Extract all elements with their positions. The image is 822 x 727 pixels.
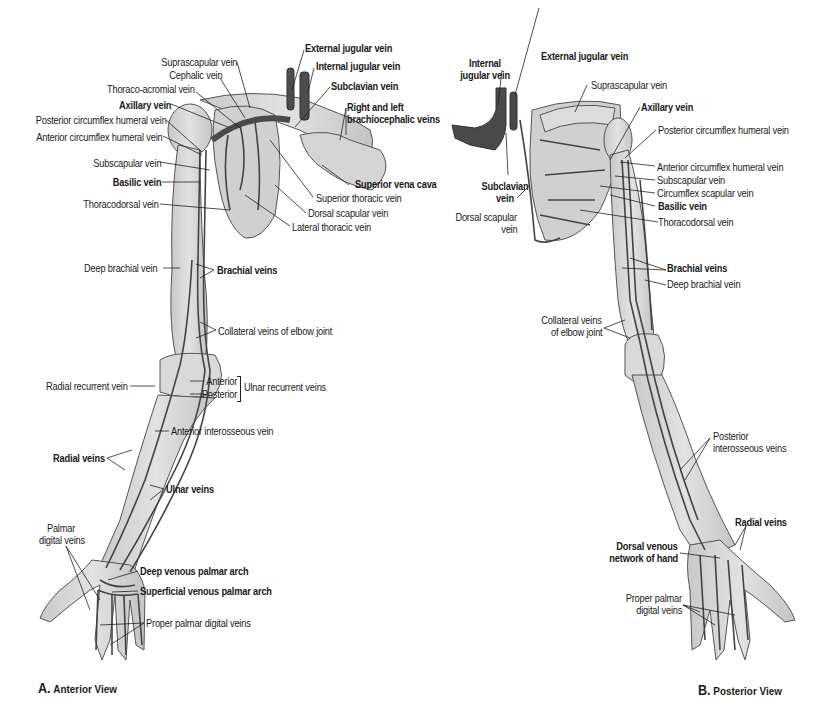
label-palmar-digital-veins-line1: Palmar: [39, 522, 83, 534]
ulnar-recurrent-bracket: [237, 376, 241, 402]
label-posterior-interosseous-veins-line2: interosseous veins: [713, 442, 786, 454]
label-basilic-vein: Basilic vein: [658, 200, 707, 212]
label-ulnar-veins: Ulnar veins: [166, 483, 214, 495]
caption-text-b: Posterior View: [713, 685, 782, 697]
label-proper-palmar-digital-veins-line2: digital veins: [636, 604, 682, 616]
label-superior-vena-cava: Superior vena cava: [355, 178, 437, 190]
label-deep-brachial-vein: Deep brachial vein: [84, 262, 157, 274]
caption-letter-a: A.: [38, 680, 51, 696]
label-posterior-circumflex-humeral-vein: Posterior circumflex humeral vein: [658, 124, 789, 136]
label-anterior-circumflex-humeral-vein: Anterior circumflex humeral vein: [37, 131, 163, 143]
label-thoracodorsal-vein: Thoracodorsal vein: [84, 198, 159, 210]
label-anterior-interosseous-vein: Anterior interosseous vein: [171, 425, 273, 437]
caption-letter-b: B.: [698, 682, 711, 698]
label-ulnar-recurrent-veins: Ulnar recurrent veins: [244, 381, 326, 393]
label-deep-venous-palmar-arch: Deep venous palmar arch: [140, 565, 248, 577]
label-collateral-veins-line2: of elbow joint: [551, 326, 602, 338]
label-deep-brachial-vein: Deep brachial vein: [667, 278, 740, 290]
label-collateral-veins-of-elbow-joint: Collateral veins of elbow joint: [218, 325, 332, 337]
label-brachiocephalic-veins-line2: brachiocephalic veins: [347, 113, 440, 125]
label-external-jugular-vein: External jugular vein: [541, 50, 628, 62]
label-internal-jugular-vein-line2: jugular vein: [459, 69, 512, 81]
label-posterior-interosseous-veins-line1: Posterior: [713, 430, 748, 442]
label-radial-recurrent-vein: Radial recurrent vein: [46, 380, 128, 392]
label-subscapular-vein: Subscapular vein: [657, 174, 725, 186]
label-palmar-digital-veins-line2: digital veins: [39, 534, 83, 546]
label-internal-jugular-vein-line1: Internal: [459, 57, 512, 69]
label-collateral-veins-line1: Collateral veins: [542, 314, 602, 326]
label-suprascapular-vein: Suprascapular vein: [591, 79, 667, 91]
label-proper-palmar-digital-veins-line1: Proper palmar: [626, 592, 682, 604]
label-ulnar-recurrent-anterior: Anterior: [206, 375, 237, 387]
label-radial-veins: Radial veins: [53, 452, 105, 464]
label-circumflex-scapular-vein: Circumflex scapular vein: [657, 187, 753, 199]
caption-text-a: Anterior View: [53, 683, 117, 695]
label-proper-palmar-digital-veins: Proper palmar digital veins: [146, 617, 251, 629]
label-brachial-veins: Brachial veins: [217, 264, 277, 276]
label-subclavian-vein: Subclavian vein: [331, 80, 398, 92]
label-internal-jugular-vein: Internal jugular vein: [316, 60, 400, 72]
caption-posterior-view: B.Posterior View: [698, 682, 782, 698]
label-superficial-venous-palmar-arch: Superficial venous palmar arch: [140, 585, 272, 597]
label-posterior-circumflex-humeral-vein: Posterior circumflex humeral vein: [36, 114, 167, 126]
posterior-view-artwork: [452, 88, 795, 660]
label-superior-thoracic-vein: Superior thoracic vein: [316, 192, 401, 204]
label-brachiocephalic-veins-line1: Right and left: [347, 101, 404, 113]
label-dorsal-scapular-vein: Dorsal scapular vein: [308, 207, 388, 219]
label-axillary-vein: Axillary vein: [641, 101, 693, 113]
label-lateral-thoracic-vein: Lateral thoracic vein: [292, 221, 371, 233]
label-radial-veins: Radial veins: [735, 516, 787, 528]
label-brachial-veins: Brachial veins: [667, 262, 727, 274]
label-cephalic-vein: Cephalic vein: [169, 69, 222, 81]
label-dorsal-scapular-vein-line2: vein: [501, 223, 517, 235]
label-dorsal-venous-network-line2: network of hand: [609, 552, 678, 564]
label-dorsal-venous-network-line1: Dorsal venous: [617, 540, 678, 552]
label-ulnar-recurrent-posterior: Posterior: [202, 388, 237, 400]
label-anterior-circumflex-humeral-vein: Anterior circumflex humeral vein: [657, 161, 783, 173]
label-basilic-vein: Basilic vein: [112, 176, 161, 188]
label-axillary-vein: Axillary vein: [119, 99, 171, 111]
label-thoracodorsal-vein: Thoracodorsal vein: [658, 216, 733, 228]
label-subclavian-vein-line2: vein: [479, 192, 532, 204]
label-dorsal-scapular-vein-line1: Dorsal scapular: [455, 211, 517, 223]
caption-anterior-view: A.Anterior View: [38, 680, 117, 696]
label-thoraco-acromial-vein: Thoraco-acromial vein: [107, 83, 195, 95]
label-subscapular-vein: Subscapular vein: [93, 157, 161, 169]
label-subclavian-vein-line1: Subclavian: [479, 180, 532, 192]
label-external-jugular-vein: External jugular vein: [305, 42, 392, 54]
label-suprascapular-vein: Suprascapular vein: [161, 56, 237, 68]
